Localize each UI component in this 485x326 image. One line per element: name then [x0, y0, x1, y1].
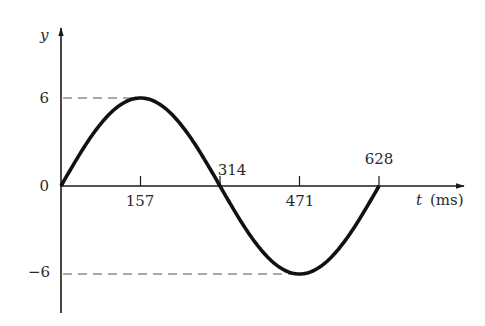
- x-tick-label-314: 314: [218, 161, 247, 179]
- x-tick-label-628: 628: [365, 150, 394, 168]
- y-axis-label: y: [39, 26, 49, 44]
- sine-wave-chart: y 6 0 −6 157 314 471 628 t (ms): [0, 0, 485, 326]
- y-tick-label-neg6: −6: [28, 263, 50, 281]
- x-ticks: [141, 176, 380, 186]
- x-axis-label-unit: (ms): [430, 191, 464, 209]
- y-tick-label-0: 0: [39, 177, 49, 195]
- x-tick-label-157: 157: [126, 192, 155, 210]
- x-tick-label-471: 471: [286, 192, 315, 210]
- y-tick-label-6: 6: [39, 89, 49, 107]
- x-axis-label-var: t: [416, 191, 423, 209]
